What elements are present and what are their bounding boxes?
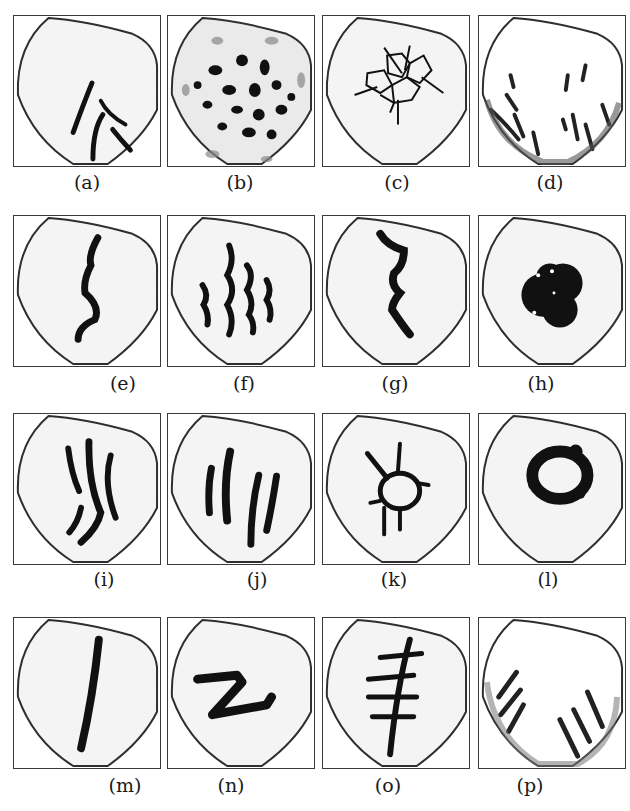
panel-label-m: (m) [95,774,155,796]
fishbone-pattern [323,618,469,768]
panel-c [322,15,470,167]
branched-streaks-pattern [14,16,160,166]
central-blob-pattern [479,216,625,366]
panel-label-o: (o) [358,774,418,796]
panel-label-h: (h) [511,372,571,394]
cracked-network-pattern [323,16,469,166]
panel-label-b: (b) [210,171,270,193]
panel-label-l: (l) [518,568,578,590]
panel-f [167,215,315,367]
panel-label-i: (i) [74,568,134,590]
panel-label-p: (p) [500,774,560,796]
panel-label-e: (e) [93,372,153,394]
panel-p [478,617,626,769]
panel-e [13,215,161,367]
panel-i [13,413,161,565]
panel-g [322,215,470,367]
z-shape-pattern [168,618,314,768]
panel-label-f: (f) [214,372,274,394]
edge-diagonal-stripes-pattern [479,618,625,768]
panel-b [167,15,315,167]
spots-pattern [168,16,314,166]
panel-label-j: (j) [227,568,287,590]
panel-a [13,15,161,167]
thick-wavy-line-pattern [323,216,469,366]
ring-pattern [479,414,625,564]
panel-l [478,413,626,565]
multiple-wavy-lines-pattern [168,216,314,366]
curved-streaks-pattern [14,414,160,564]
edge-streaks-pattern [479,16,625,166]
panel-j [167,413,315,565]
panel-label-a: (a) [57,171,117,193]
single-straight-line-pattern [14,618,160,768]
panel-o [322,617,470,769]
panel-label-d: (d) [520,171,580,193]
panel-label-g: (g) [365,372,425,394]
panel-n [167,617,315,769]
single-wavy-line-pattern [14,216,160,366]
panel-label-c: (c) [367,171,427,193]
panel-m [13,617,161,769]
panel-h [478,215,626,367]
panel-label-n: (n) [201,774,261,796]
panel-d [478,15,626,167]
panel-k [322,413,470,565]
panel-label-k: (k) [364,568,424,590]
parallel-streaks-pattern [168,414,314,564]
star-ring-pattern [323,414,469,564]
